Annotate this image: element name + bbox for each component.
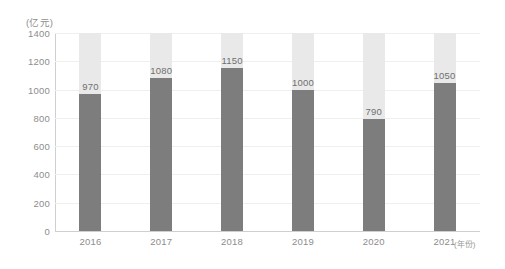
y-axis-tick-label: 0 [4,226,50,237]
y-axis-tick-label: 1000 [4,84,50,95]
bar-data-label: 790 [366,106,382,117]
bar-segment-value [363,119,385,231]
bar-data-label: 1080 [150,65,172,76]
y-axis-tick-label: 600 [4,141,50,152]
x-axis-tick-label: 2016 [60,236,120,247]
bar-data-label: 970 [82,81,98,92]
bar-segment-value [292,90,314,231]
bar-segment-value [79,94,101,231]
x-axis-unit-label: (年份) [454,238,475,249]
bar-data-label: 1050 [434,70,456,81]
bar-group[interactable]: 790 [363,33,385,231]
bar-data-label: 1150 [221,55,242,66]
gridline [55,231,480,232]
bar-group[interactable]: 1050 [434,33,456,231]
y-axis-ticks: 0200400600800100012001400 [0,33,50,231]
bar-segment-value [434,83,456,232]
y-axis-tick-label: 200 [4,197,50,208]
bar-series: 9701080115010007901050 [55,33,480,231]
x-axis-tick-label: 2018 [202,236,262,247]
bar-group[interactable]: 1150 [221,33,243,231]
y-axis-tick-label: 400 [4,169,50,180]
y-axis-tick-label: 800 [4,112,50,123]
bar-group[interactable]: 1080 [150,33,172,231]
bar-group[interactable]: 970 [79,33,101,231]
bar-chart: (亿元) 0200400600800100012001400 970108011… [0,0,505,269]
x-axis-ticks: 201620172018201920202021 [55,236,480,250]
x-axis-tick-label: 2017 [131,236,191,247]
bar-data-label: 1000 [292,77,314,88]
bar-segment-value [221,68,243,231]
bar-segment-value [150,78,172,231]
y-axis-tick-label: 1400 [4,28,50,39]
bar-group[interactable]: 1000 [292,33,314,231]
x-axis-tick-label: 2020 [344,236,404,247]
x-axis-tick-label: 2019 [273,236,333,247]
y-axis-tick-label: 1200 [4,56,50,67]
